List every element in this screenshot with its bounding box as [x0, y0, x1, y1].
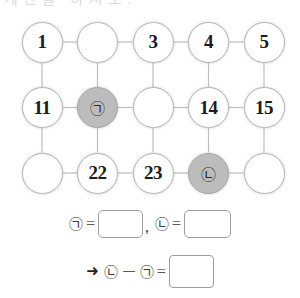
- grid-cell-3[interactable]: 3: [133, 22, 174, 63]
- grid-cell-22[interactable]: 22: [77, 153, 118, 194]
- answer-box-a[interactable]: [98, 210, 143, 238]
- grid-cell-label: 4: [204, 31, 213, 53]
- number-grid: 134511㉠14152223㉡: [0, 10, 300, 205]
- grid-cell-marker-b[interactable]: ㉡: [188, 153, 229, 194]
- equals-sign-b: =: [172, 216, 181, 232]
- grid-cell-label: 22: [89, 162, 107, 184]
- symbol-a-label: ㉠: [69, 217, 83, 231]
- grid-cell-label: 14: [200, 97, 218, 119]
- grid-cell-4[interactable]: 4: [188, 22, 229, 63]
- symbol-a-label-2: ㉠: [140, 265, 154, 279]
- grid-cell-marker-a[interactable]: ㉠: [77, 87, 118, 128]
- equals-sign-c: =: [157, 264, 166, 280]
- clipped-header-text: 계산을 하시오.: [0, 0, 300, 9]
- grid-cell-23[interactable]: 23: [133, 153, 174, 194]
- answer-box-difference[interactable]: [169, 255, 214, 288]
- grid-cell-label: 3: [149, 31, 158, 53]
- grid-cell-11[interactable]: 11: [22, 87, 63, 128]
- clipped-header-label: 계산을 하시오.: [4, 0, 136, 8]
- grid-cell-label: 1: [38, 31, 47, 53]
- comma-separator: ,: [145, 218, 149, 238]
- grid-cell-label: 15: [255, 97, 273, 119]
- minus-sign: －: [121, 264, 137, 280]
- grid-cell-label: ㉡: [201, 163, 216, 184]
- answer-row-values: ㉠ = , ㉡ =: [0, 210, 300, 238]
- grid-cell-label: 5: [260, 31, 269, 53]
- grid-cell-1[interactable]: 1: [22, 22, 63, 63]
- equals-sign-a: =: [86, 216, 95, 232]
- grid-cell-empty-r3c5[interactable]: [244, 153, 285, 194]
- symbol-b-label: ㉡: [155, 217, 169, 231]
- grid-cell-empty-r3c1[interactable]: [22, 153, 63, 194]
- grid-cell-5[interactable]: 5: [244, 22, 285, 63]
- answer-area: ㉠ = , ㉡ = ➜ ㉡ － ㉠ =: [0, 205, 300, 298]
- grid-cell-14[interactable]: 14: [188, 87, 229, 128]
- grid-cell-label: 23: [144, 162, 162, 184]
- grid-cell-label: ㉠: [90, 97, 105, 118]
- grid-cell-label: 11: [34, 97, 51, 119]
- grid-cell-empty-r1c2[interactable]: [77, 22, 118, 63]
- symbol-b-label-2: ㉡: [104, 265, 118, 279]
- arrow-icon: ➜: [86, 264, 99, 279]
- grid-cell-15[interactable]: 15: [244, 87, 285, 128]
- grid-cell-empty-r2c3[interactable]: [133, 87, 174, 128]
- answer-box-b[interactable]: [184, 210, 231, 238]
- answer-row-difference: ➜ ㉡ － ㉠ =: [0, 255, 300, 288]
